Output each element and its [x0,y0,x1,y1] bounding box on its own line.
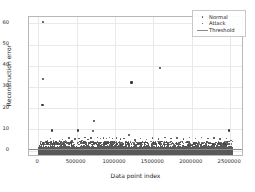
attack-outlier-point [228,129,230,131]
data-point [201,137,202,138]
data-point [130,141,131,142]
data-point [106,138,107,139]
legend-item-attack: Attack [196,20,242,27]
data-point [183,138,184,139]
data-point [97,137,98,138]
data-point [93,143,94,144]
data-point [164,144,165,145]
data-point [213,137,214,138]
data-point [109,144,110,145]
data-point [85,144,86,145]
data-point [140,138,141,139]
attack-outlier-point [41,104,43,106]
data-point [183,143,184,144]
legend-item-threshold: Threshold [196,27,242,34]
data-point [146,139,147,140]
data-point [164,137,165,138]
x-tick-label: 2000000 [171,159,211,164]
data-point [120,138,121,139]
data-point [68,137,69,138]
gridline-horizontal [29,45,242,46]
data-point [103,137,104,138]
data-point [161,143,162,144]
data-point [89,142,90,143]
gridline-vertical [77,17,78,155]
data-point [148,143,149,144]
data-point [154,144,155,145]
data-point [134,139,135,140]
attack-outlier-point [92,130,94,132]
data-point [142,141,143,142]
gridline-horizontal [29,129,242,130]
data-point [116,137,117,138]
data-point [128,143,129,144]
gridline-vertical [115,17,116,155]
plot-area [28,16,243,156]
data-point [189,137,190,138]
data-point [63,141,64,142]
threshold-line-icon [196,30,209,31]
data-point [90,141,91,142]
data-point [133,143,134,144]
gridline-vertical [192,17,193,155]
data-point [188,141,189,142]
y-axis-label: Reconstruction error [5,16,12,136]
data-point [97,141,98,142]
data-point [231,144,232,145]
data-point [215,144,216,145]
gridline-horizontal [29,66,242,67]
data-point [176,143,177,144]
data-point [50,138,51,139]
legend-label: Attack [209,20,226,26]
data-point [90,137,91,138]
data-point [176,137,177,138]
data-point [87,139,88,140]
data-point [192,144,193,145]
threshold-line [29,149,242,150]
data-point [68,144,69,145]
attack-outlier-point [130,81,132,83]
data-point [172,142,173,143]
data-point [128,141,129,142]
legend-label: Threshold [209,27,235,33]
data-point [81,140,82,141]
data-point [206,141,207,142]
data-point [230,140,231,141]
data-point [71,140,72,141]
x-tick-label: 1000000 [94,159,134,164]
data-point [158,138,159,139]
data-point [82,142,83,143]
gridline-horizontal [29,87,242,88]
x-tick-label: 500000 [56,159,96,164]
data-point [179,142,180,143]
data-point [108,142,109,143]
data-point [74,138,75,139]
x-tick-label: 2500000 [209,159,249,164]
data-point [155,141,156,142]
attack-outlier-point [159,67,161,69]
data-point [84,137,85,138]
data-point [112,138,113,139]
data-point [166,144,167,145]
attack-outlier-point [51,129,53,131]
data-point [77,142,78,143]
data-point [187,144,188,145]
attack-outlier-point [77,129,79,131]
gridline-horizontal [29,108,242,109]
attack-outlier-point [42,78,44,80]
data-point [127,143,128,144]
data-point [219,138,220,139]
data-point [207,138,208,139]
data-point [40,144,41,145]
gridline-vertical [38,17,39,155]
data-point [182,141,183,142]
x-tick-label: 1500000 [132,159,172,164]
data-point [212,143,213,144]
data-point [47,140,48,141]
data-point [78,138,79,139]
data-point [46,141,47,142]
data-point [109,137,110,138]
normal-marker-icon [196,16,209,18]
legend: Normal Attack Threshold [192,10,246,37]
data-point [65,144,66,145]
